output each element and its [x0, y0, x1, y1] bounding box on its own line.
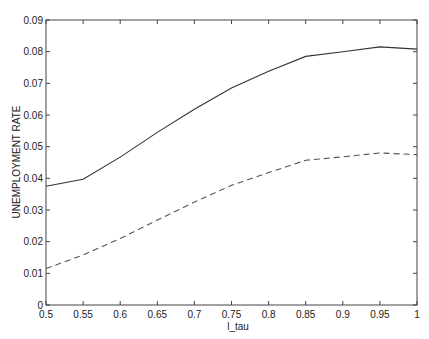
plot-area	[46, 20, 417, 305]
y-tick-label: 0.08	[24, 46, 44, 57]
x-tick-label: 0.9	[336, 309, 350, 320]
x-tick-label: 0.8	[262, 309, 276, 320]
x-tick-label: 0.95	[370, 309, 390, 320]
y-tick-label: 0	[37, 300, 43, 311]
x-axis: 0.50.550.60.650.70.750.80.850.90.951	[39, 20, 420, 320]
x-tick-label: 0.75	[222, 309, 242, 320]
series-group	[46, 47, 417, 269]
y-tick-label: 0.04	[24, 173, 44, 184]
x-tick-label: 0.5	[39, 309, 53, 320]
y-tick-label: 0.03	[24, 205, 44, 216]
y-tick-label: 0.07	[24, 78, 44, 89]
y-tick-label: 0.05	[24, 141, 44, 152]
y-tick-label: 0.01	[24, 268, 44, 279]
x-tick-label: 0.65	[148, 309, 168, 320]
series-line-solid	[46, 47, 417, 186]
y-tick-label: 0.02	[24, 236, 44, 247]
x-tick-label: 0.55	[73, 309, 93, 320]
x-axis-label: l_tau	[227, 321, 249, 332]
x-tick-label: 0.85	[296, 309, 316, 320]
y-tick-label: 0.06	[24, 110, 44, 121]
series-line-dashed	[46, 153, 417, 269]
x-tick-label: 1	[414, 309, 420, 320]
line-chart: 0.50.550.60.650.70.750.80.850.90.951 00.…	[0, 0, 429, 339]
y-axis: 00.010.020.030.040.050.060.070.080.09	[24, 15, 417, 311]
x-tick-label: 0.6	[113, 309, 127, 320]
y-tick-label: 0.09	[24, 15, 44, 26]
y-axis-label: UNEMPLOYMENT RATE	[11, 105, 22, 218]
plot-frame	[46, 20, 417, 305]
x-tick-label: 0.7	[187, 309, 201, 320]
